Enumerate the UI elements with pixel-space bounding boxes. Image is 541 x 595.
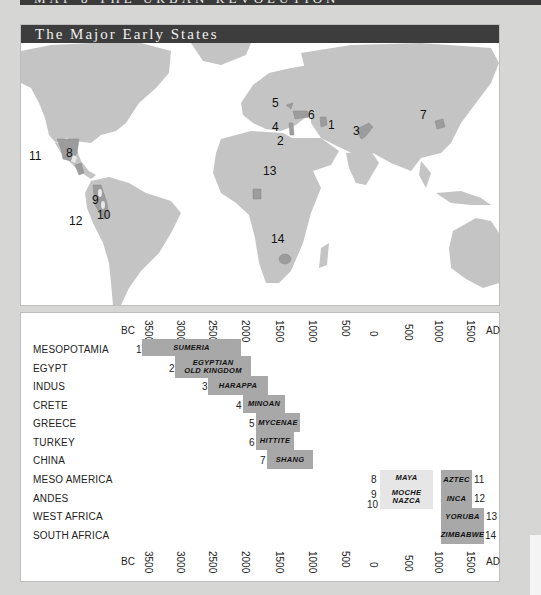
map-label-5: 5 (272, 97, 279, 109)
bar-num-5: 5 (249, 418, 255, 429)
map-label-10: 10 (97, 209, 110, 221)
axis-bc-bottom: BC (121, 556, 135, 567)
bar-num-8: 8 (371, 474, 377, 485)
bar-hittite: HITTITE (256, 432, 294, 450)
chapter-banner: MAP 8 THE URBAN REVOLUTION (20, 0, 541, 5)
bar-num-3: 3 (202, 381, 208, 392)
map-label-9: 9 (92, 194, 99, 206)
tick-bottom-3500bc: 3500 (143, 551, 154, 573)
row-label-egypt: EGYPT (33, 363, 68, 374)
tick-bottom-500ad: 500 (403, 555, 414, 572)
tick-1500ad: 1500 (465, 320, 476, 342)
bar-moche-nazca: MOCHE NAZCA (392, 489, 421, 505)
bar-num-2: 2 (169, 363, 175, 374)
map-label-11: 11 (29, 150, 41, 162)
tick-1000ad: 1000 (433, 320, 444, 342)
bar-num-14: 14 (485, 530, 496, 541)
bar-sumeria: SUMERIA (142, 339, 241, 356)
bar-num-6: 6 (249, 437, 255, 448)
tick-1500bc: 1500 (274, 320, 285, 342)
bar-maya-moche-nazca: MAYA MOCHE NAZCA (380, 470, 433, 509)
page-edge (530, 535, 541, 595)
world-map (21, 43, 499, 305)
row-label-andes: ANDES (33, 493, 68, 504)
tick-bottom-1500ad: 1500 (465, 551, 476, 573)
bar-egyptian-line2: OLD KINGDOM (184, 367, 241, 375)
axis-bc-top: BC (121, 325, 135, 336)
chapter-banner-text: MAP 8 THE URBAN REVOLUTION (34, 0, 340, 5)
row-label-meso-america: MESO AMERICA (33, 474, 113, 485)
row-label-crete: CRETE (33, 400, 68, 411)
bar-shang: SHANG (267, 450, 313, 469)
map-label-8: 8 (66, 147, 73, 159)
bar-num-7: 7 (260, 455, 266, 466)
map-label-3: 3 (353, 125, 360, 137)
tick-0: 0 (368, 331, 379, 337)
map-label-1: 1 (328, 119, 335, 131)
bar-mycenae: MYCENAE (256, 413, 300, 432)
bar-aztec: AZTEC (441, 470, 472, 489)
tick-bottom-2000bc: 2000 (240, 551, 251, 573)
bar-egyptian-old-kingdom: EGYPTIAN OLD KINGDOM (175, 356, 251, 378)
row-label-mesopotamia: MESOPOTAMIA (33, 344, 109, 355)
bar-harappa: HARAPPA (208, 376, 268, 395)
tick-1000bc: 1000 (307, 320, 318, 342)
tick-bottom-1000ad: 1000 (433, 551, 444, 573)
tick-bottom-1000bc: 1000 (307, 551, 318, 573)
map-label-6: 6 (308, 109, 315, 121)
bar-maya: MAYA (395, 474, 417, 482)
map-label-4: 4 (272, 121, 279, 133)
tick-bottom-1500bc: 1500 (274, 551, 285, 573)
tick-bottom-500bc: 500 (340, 551, 351, 568)
bar-minoan: MINOAN (243, 395, 285, 413)
map-title: The Major Early States (21, 25, 499, 43)
tick-2000bc: 2000 (240, 320, 251, 342)
tick-bottom-0: 0 (368, 562, 379, 568)
row-label-west-africa: WEST AFRICA (33, 511, 103, 522)
bar-inca: INCA (441, 489, 472, 508)
row-label-south-africa: SOUTH AFRICA (33, 530, 109, 541)
map-label-12: 12 (69, 215, 82, 227)
map-label-2: 2 (277, 135, 284, 147)
bar-nazca: NAZCA (392, 497, 421, 505)
tick-bottom-2500bc: 2500 (207, 551, 218, 573)
map-label-13: 13 (263, 165, 276, 177)
row-label-turkey: TURKEY (33, 437, 75, 448)
bar-yoruba: YORUBA (441, 508, 484, 526)
bar-num-4: 4 (236, 400, 242, 411)
map-label-14: 14 (271, 233, 284, 245)
bar-num-13: 13 (486, 511, 497, 522)
tick-bottom-3000bc: 3000 (175, 551, 186, 573)
map-panel: The Major Early States (20, 24, 500, 306)
bar-num-11: 11 (474, 474, 484, 485)
axis-ad-top: AD (486, 325, 500, 336)
bar-num-10: 10 (367, 499, 378, 510)
bar-num-12: 12 (474, 493, 485, 504)
row-label-china: CHINA (33, 455, 65, 466)
row-label-indus: INDUS (33, 381, 65, 392)
map-label-7: 7 (420, 109, 427, 121)
tick-500ad: 500 (403, 324, 414, 341)
timeline-panel: BC 3500 3000 2500 2000 1500 1000 500 0 5… (20, 312, 500, 582)
row-label-greece: GREECE (33, 418, 76, 429)
bar-zimbabwe: ZIMBABWE (441, 526, 484, 544)
tick-500bc: 500 (340, 320, 351, 337)
bar-num-1: 1 (136, 344, 142, 355)
axis-ad-bottom: AD (486, 556, 500, 567)
